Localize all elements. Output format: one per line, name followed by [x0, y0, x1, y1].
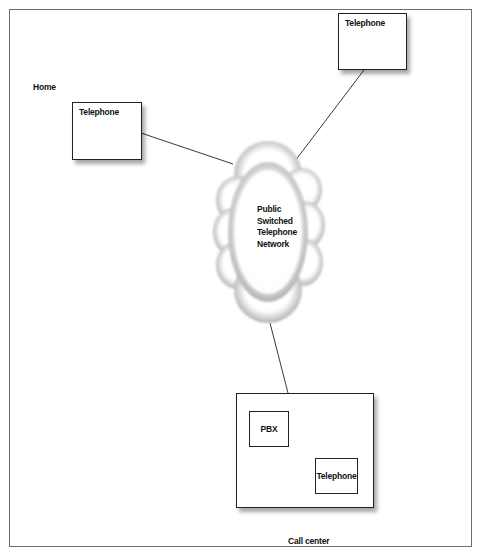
- link-pstn-to-callcenter: [270, 323, 288, 393]
- remote-telephone-node: Telephone: [338, 13, 407, 70]
- pstn-label-line: Public: [257, 204, 297, 216]
- pstn-label-line: Telephone: [257, 227, 297, 239]
- link-remote-to-pstn: [295, 70, 364, 161]
- call-center-telephone-label: Telephone: [316, 471, 356, 481]
- link-home-to-pstn: [141, 133, 233, 164]
- pbx-node: PBX: [249, 411, 289, 447]
- call-center-telephone-node: Telephone: [315, 458, 358, 494]
- pstn-label-line: Network: [257, 239, 297, 251]
- home-telephone-node: Telephone: [72, 102, 142, 160]
- label-home: Home: [33, 82, 56, 92]
- remote-telephone-label: Telephone: [345, 18, 385, 28]
- pbx-label: PBX: [261, 424, 278, 434]
- pstn-label-line: Switched: [257, 216, 297, 228]
- label-call-center: Call center: [288, 536, 329, 546]
- pstn-label: Public Switched Telephone Network: [257, 204, 297, 250]
- home-telephone-label: Telephone: [79, 107, 119, 117]
